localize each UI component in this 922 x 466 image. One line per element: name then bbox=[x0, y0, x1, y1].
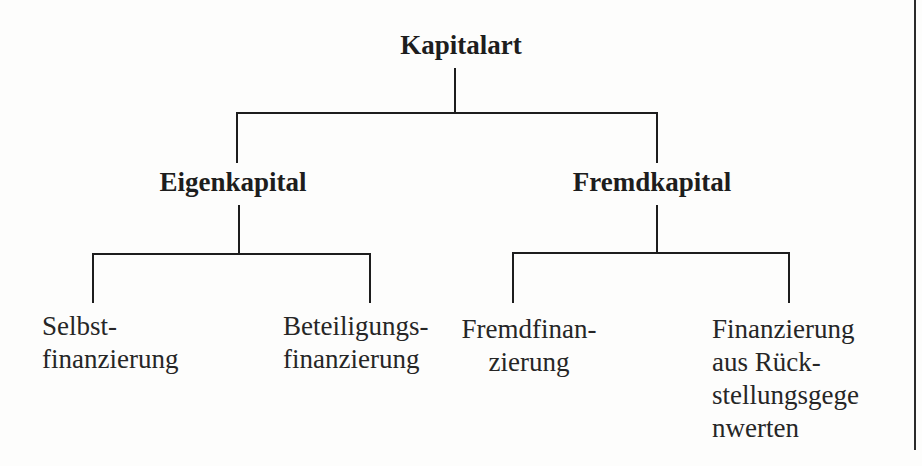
fremdkapital-drop-line bbox=[656, 112, 658, 163]
leaf-text-line: aus Rück- bbox=[712, 346, 859, 379]
diagram-canvas: Kapitalart Eigenkapital Fremdkapital Sel… bbox=[0, 0, 922, 466]
eigenkapital-stem-line bbox=[238, 205, 240, 255]
leaf-beteiligungsfinanzierung: Beteiligungs- finanzierung bbox=[283, 310, 428, 376]
leaf-text-line: Fremdfinan- bbox=[462, 313, 597, 346]
leaf-text-line: stellungsgege bbox=[712, 379, 859, 412]
leaf-text-line: zierung bbox=[462, 346, 597, 379]
root-stem-line bbox=[454, 68, 456, 114]
leaf-text-line: nwerten bbox=[712, 412, 859, 445]
fremdkapital-stem-line bbox=[656, 205, 658, 254]
leaf-text-line: Beteiligungs- bbox=[283, 310, 428, 343]
page-edge-rule bbox=[914, 0, 916, 450]
level1-connector-line bbox=[236, 112, 658, 114]
beteiligungsfinanzierung-drop-line bbox=[369, 253, 371, 303]
leaf-text-line: Selbst- bbox=[42, 310, 178, 343]
rueckstellungen-drop-line bbox=[788, 252, 790, 303]
node-eigenkapital: Eigenkapital bbox=[159, 166, 306, 199]
node-fremdkapital: Fremdkapital bbox=[573, 166, 732, 199]
leaf-finanzierung-aus-rueckstellungsgegenwerten: Finanzierung aus Rück- stellungsgege nwe… bbox=[712, 313, 859, 445]
leaf-fremdfinanzierung: Fremdfinan- zierung bbox=[462, 313, 597, 379]
fremdfinanzierung-drop-line bbox=[512, 252, 514, 303]
node-kapitalart: Kapitalart bbox=[400, 29, 522, 62]
leaf-text-line: finanzierung bbox=[283, 343, 428, 376]
fremdkapital-children-connector-line bbox=[512, 252, 790, 254]
leaf-text-line: finanzierung bbox=[42, 343, 178, 376]
eigenkapital-drop-line bbox=[236, 112, 238, 163]
selbstfinanzierung-drop-line bbox=[92, 253, 94, 303]
leaf-selbstfinanzierung: Selbst- finanzierung bbox=[42, 310, 178, 376]
eigenkapital-children-connector-line bbox=[92, 253, 371, 255]
leaf-text-line: Finanzierung bbox=[712, 313, 859, 346]
